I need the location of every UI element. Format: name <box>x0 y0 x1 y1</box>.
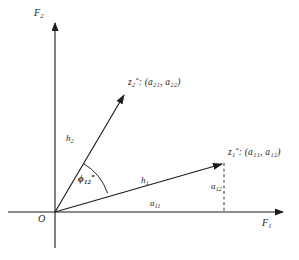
y-axis-label: F2 <box>34 8 44 18</box>
vector-z1-label: z1*: (a₁₁, a₁₂) <box>228 148 281 158</box>
vector-z2-label: z2*: (a₂₁, a₂₂) <box>128 78 181 88</box>
length-h1-label: h1 <box>141 176 149 185</box>
origin-label: O <box>38 214 45 224</box>
x-axis-label: F1 <box>262 218 272 228</box>
vector-diagram-figure: F2 F1 O z2*: (a₂₁, a₂₂) z1*: (a₁₁, a₁₂) … <box>0 0 299 260</box>
length-h2-label: h2 <box>66 134 74 143</box>
vector-z1-arrow <box>55 164 222 212</box>
angle-label: ϕ12* <box>78 174 95 184</box>
component-a12-label: a12 <box>211 182 222 191</box>
vector-z2-arrow <box>55 95 124 212</box>
component-a11-label: a11 <box>150 199 161 208</box>
